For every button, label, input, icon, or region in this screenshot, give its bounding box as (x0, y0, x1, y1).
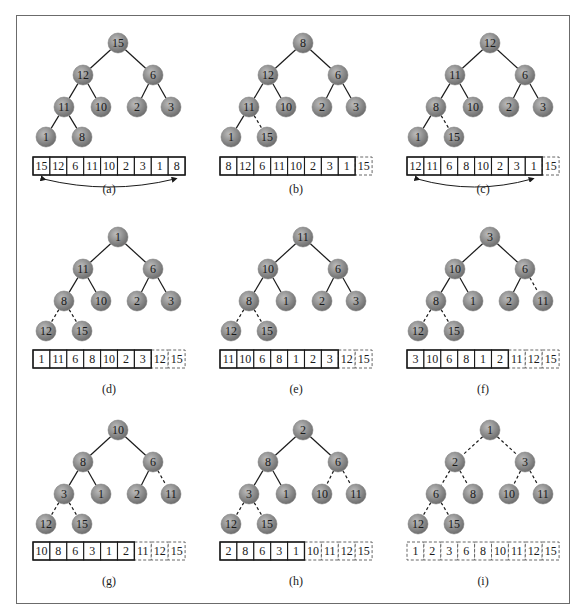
node-value: 6 (433, 487, 439, 501)
heap-node: 3 (346, 291, 366, 311)
tree-nodes: 1110681231215 (221, 227, 366, 341)
array-cell: 2 (118, 157, 135, 175)
cell-value: 8 (276, 352, 282, 366)
node-value: 6 (522, 68, 528, 82)
array-cell: 10 (288, 157, 305, 175)
node-value: 3 (61, 487, 67, 501)
node-value: 11 (165, 487, 177, 501)
tree-edge (158, 278, 166, 293)
array-cell: 10 (475, 157, 492, 175)
array-cell-sorted: 15 (355, 350, 372, 368)
cell-value: 8 (463, 352, 469, 366)
dashed-edge (441, 503, 449, 516)
heap-node: 11 (533, 291, 553, 311)
cell-value: 2 (497, 352, 503, 366)
heap-node: 15 (444, 514, 464, 534)
cell-value: 2 (497, 159, 503, 173)
node-value: 10 (262, 262, 274, 276)
tree-nodes: 1512611102318 (36, 33, 181, 147)
array-cell-sorted: 3 (441, 542, 458, 560)
cell-value: 12 (528, 544, 540, 558)
array-cell: 2 (492, 350, 509, 368)
tree-edge (88, 471, 96, 486)
cell-value: 3 (89, 544, 95, 558)
array-cell: 6 (67, 350, 84, 368)
array-cell: 1 (101, 542, 118, 560)
heap-node: 3 (161, 291, 181, 311)
heap-node: 11 (346, 484, 366, 504)
array-cell: 12 (237, 157, 254, 175)
tree-edge (69, 116, 77, 129)
tree-edge (326, 84, 333, 98)
cell-value: 15 (171, 352, 183, 366)
cell-value: 1 (293, 352, 299, 366)
cell-value: 10 (103, 352, 115, 366)
cell-value: 1 (106, 544, 112, 558)
heap-node: 8 (426, 97, 446, 117)
node-value: 3 (168, 100, 174, 114)
tree-edge (254, 471, 263, 486)
array-cell: 10 (101, 157, 118, 175)
heap-node: 12 (73, 65, 93, 85)
array-cell-sorted: 12 (338, 350, 355, 368)
cell-value: 15 (545, 544, 557, 558)
tree-edge (275, 244, 295, 263)
node-value: 11 (58, 100, 70, 114)
heap-node: 12 (480, 33, 500, 53)
tree-edge (310, 50, 330, 69)
tree-edges (236, 244, 351, 323)
node-value: 15 (448, 517, 460, 531)
cell-value: 2 (225, 544, 231, 558)
tree-edge (254, 84, 263, 99)
cell-value: 8 (89, 352, 95, 366)
node-value: 15 (112, 36, 124, 50)
node-value: 8 (433, 294, 439, 308)
heap-node: 12 (221, 514, 241, 534)
node-value: 6 (335, 455, 341, 469)
cell-value: 11 (324, 544, 336, 558)
heap-node: 3 (239, 484, 259, 504)
heap-node: 10 (91, 291, 111, 311)
heap-node: 8 (73, 452, 93, 472)
array-cell: 2 (305, 350, 322, 368)
cell-value: 6 (259, 352, 265, 366)
node-value: 10 (95, 100, 107, 114)
cell-value: 12 (154, 544, 166, 558)
heap-node: 3 (480, 227, 500, 247)
tree-edge (88, 84, 96, 99)
tree-nodes: 2863110111215 (221, 420, 366, 534)
heap-node: 2 (127, 484, 147, 504)
array-cell-sorted: 8 (475, 542, 492, 560)
heap-node: 3 (533, 97, 553, 117)
array-cell: 3 (271, 542, 288, 560)
array-cell: 11 (271, 157, 288, 175)
cell-value: 3 (412, 352, 418, 366)
cell-value: 1 (480, 352, 486, 366)
heap-node: 8 (258, 452, 278, 472)
heap-node: 10 (91, 97, 111, 117)
array-cell: 8 (84, 350, 101, 368)
heap-node: 15 (444, 321, 464, 341)
dashed-edge (69, 310, 77, 323)
heap-panel-a: 15126111023181512611102318(a) (33, 33, 185, 196)
array-cell: 3 (84, 542, 101, 560)
dashed-edge (51, 310, 59, 323)
dashed-edge (69, 503, 77, 516)
heap-panel-h: 28631101112152863110111215(h) (220, 420, 372, 588)
tree-edge (125, 244, 145, 263)
cell-value: 11 (511, 352, 523, 366)
array-cell-sorted: 12 (151, 350, 168, 368)
node-value: 1 (283, 294, 289, 308)
heap-node: 15 (257, 514, 277, 534)
dashed-edge (236, 310, 244, 323)
tree-edge (273, 278, 281, 293)
dashed-edge (254, 310, 262, 323)
array-row: 3106812111215 (407, 350, 559, 368)
array-cell: 2 (118, 350, 135, 368)
tree-edge (141, 471, 148, 485)
tree-nodes: 1116810231215 (36, 227, 181, 341)
node-value: 1 (115, 230, 121, 244)
tree-edge (254, 278, 263, 293)
cell-value: 1 (157, 159, 163, 173)
node-value: 10 (449, 262, 461, 276)
